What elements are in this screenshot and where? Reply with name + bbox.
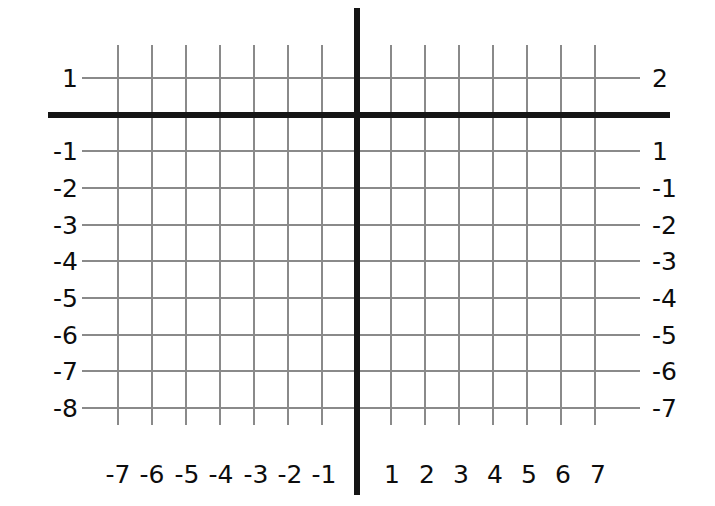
y-tick-label-left: -5	[53, 286, 78, 311]
y-tick-label-right: -5	[652, 323, 677, 348]
x-axis	[48, 112, 670, 118]
y-tick-label-left: -8	[53, 396, 78, 421]
y-tick-label-left: -4	[53, 249, 78, 274]
y-tick-label-left: 1	[62, 66, 78, 91]
x-tick-label: 6	[555, 462, 571, 487]
y-tick-label-left: -7	[53, 359, 78, 384]
x-tick-label: -4	[209, 462, 234, 487]
x-tick-label: 1	[384, 462, 400, 487]
y-tick-label-right: -6	[652, 359, 677, 384]
y-tick-label-right: -7	[652, 396, 677, 421]
y-tick-label-right: -1	[652, 176, 677, 201]
coordinate-grid-figure: 1-1-2-3-4-5-6-7-8 21-1-2-3-4-5-6-7 -7-6-…	[0, 0, 715, 506]
x-tick-label: -1	[312, 462, 337, 487]
y-tick-label-left: -6	[53, 323, 78, 348]
x-tick-label: -5	[175, 462, 200, 487]
x-tick-label: 5	[521, 462, 537, 487]
x-tick-label: 4	[487, 462, 503, 487]
x-tick-label: -2	[278, 462, 303, 487]
x-tick-label: 2	[419, 462, 435, 487]
y-tick-label-right: -4	[652, 286, 677, 311]
y-tick-label-left: -1	[53, 139, 78, 164]
y-tick-label-right: 1	[652, 139, 668, 164]
y-tick-label-left: -2	[53, 176, 78, 201]
x-tick-label: -6	[140, 462, 165, 487]
y-tick-label-right: 2	[652, 66, 668, 91]
x-tick-label: 3	[453, 462, 469, 487]
y-tick-label-right: -2	[652, 213, 677, 238]
y-tick-label-left: -3	[53, 213, 78, 238]
x-tick-label: -3	[244, 462, 269, 487]
y-tick-label-right: -3	[652, 249, 677, 274]
x-tick-label: 7	[590, 462, 606, 487]
x-tick-label: -7	[106, 462, 131, 487]
y-axis	[354, 8, 360, 495]
